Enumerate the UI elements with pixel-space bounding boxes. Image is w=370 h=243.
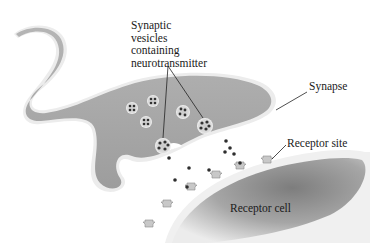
receptor-site-label: Receptor site — [287, 137, 347, 149]
receptor-site-icon — [261, 156, 273, 163]
vesicles-label-line-1: Synaptic — [131, 19, 207, 32]
vesicle-icon — [126, 102, 138, 114]
synapse-label: Synapse — [309, 80, 347, 92]
receptor-cell — [165, 150, 370, 243]
vesicle-icon — [147, 95, 159, 107]
synapse-diagram: Synaptic vesicles containing neurotransm… — [0, 0, 370, 243]
vesicles-label: Synaptic vesicles containing neurotransm… — [131, 19, 207, 69]
vesicle-icon — [155, 138, 171, 154]
receptor-cell-label: Receptor cell — [230, 202, 291, 214]
synapse-leader-line — [276, 92, 307, 110]
vesicle-icon — [176, 105, 190, 119]
receptor-site-icon — [161, 200, 173, 207]
vesicles-label-line-4: neurotransmitter — [131, 57, 207, 70]
vesicle-icon — [197, 118, 213, 134]
vesicles-label-line-3: containing — [131, 44, 207, 57]
vesicles-label-line-2: vesicles — [131, 32, 207, 45]
vesicle-icon — [140, 116, 152, 128]
receptor-site-leader-line — [272, 145, 286, 159]
receptor-site-icon — [210, 171, 222, 178]
receptor-site-icon — [143, 220, 155, 227]
